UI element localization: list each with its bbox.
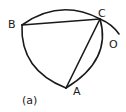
chord-bc bbox=[22, 19, 100, 25]
figure-caption: (a) bbox=[22, 94, 37, 107]
spherical-triangle-diagram: B C O A (a) bbox=[0, 0, 126, 112]
label-c: C bbox=[98, 7, 106, 20]
chord-ca bbox=[66, 19, 100, 88]
label-o: O bbox=[109, 38, 118, 51]
arc-ba bbox=[22, 25, 66, 88]
label-a: A bbox=[73, 85, 81, 98]
label-b: B bbox=[8, 18, 16, 31]
